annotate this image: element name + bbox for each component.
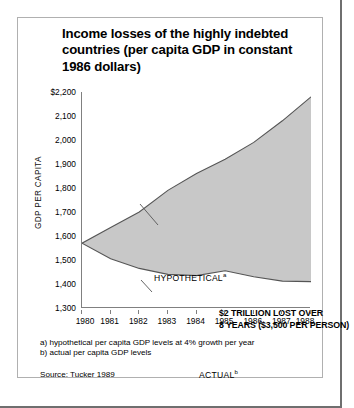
y-axis-tick-label: 2,000 [22,136,76,145]
footnote-b: b) actual per capita GDP levels [40,348,315,358]
x-axis-tick-mark [138,310,139,314]
leader-line-actual [141,280,152,292]
series-label-actual-text: ACTUAL [199,370,234,380]
x-axis-tick-mark [196,310,197,314]
x-axis-tick-mark [224,310,225,314]
x-axis-tick-labels: 198019811982198319841985198619871988 [81,310,310,330]
footnotes: a) hypothetical per capita GDP levels at… [40,338,315,358]
footnote-marker-b: b [234,369,238,375]
y-axis-tick-label: 2,100 [22,112,76,121]
y-axis-tick-label: 1,300 [22,304,76,313]
x-axis-tick-mark [167,310,168,314]
source-note: Source: Tucker 1989 [40,370,115,379]
y-axis-tick-label: 1,600 [22,232,76,241]
page-title: Income losses of the highly indebted cou… [62,26,316,75]
figure-card: Income losses of the highly indebted cou… [17,17,323,378]
y-axis-tick-label: 1,700 [22,208,76,217]
y-axis-tick-label: $2,200 [22,88,76,97]
x-axis-tick-mark [310,310,311,314]
x-axis-tick-mark [253,310,254,314]
x-axis-tick-label: 1988 [285,316,325,326]
plot-area: HYPOTHETICALa ACTUALb $2 TRILLION LOST O… [81,92,310,308]
y-axis-tick-label: 1,900 [22,160,76,169]
x-axis-tick-mark [110,310,111,314]
y-axis-tick-label: 1,400 [22,280,76,289]
y-axis-tick-label: 1,800 [22,184,76,193]
series-label-actual: ACTUALb [199,369,238,380]
series-label-hypothetical: HYPOTHETICALa [154,272,227,283]
footnote-marker-a: a [223,272,227,278]
footnote-a: a) hypothetical per capita GDP levels at… [40,338,315,348]
x-axis-tick-mark [281,310,282,314]
x-axis-tick-mark [81,310,82,314]
y-axis-tick-labels: $2,2002,1002,0001,9001,8001,7001,6001,50… [18,92,76,308]
y-axis-tick-label: 1,500 [22,256,76,265]
series-label-hypothetical-text: HYPOTHETICAL [154,273,223,283]
